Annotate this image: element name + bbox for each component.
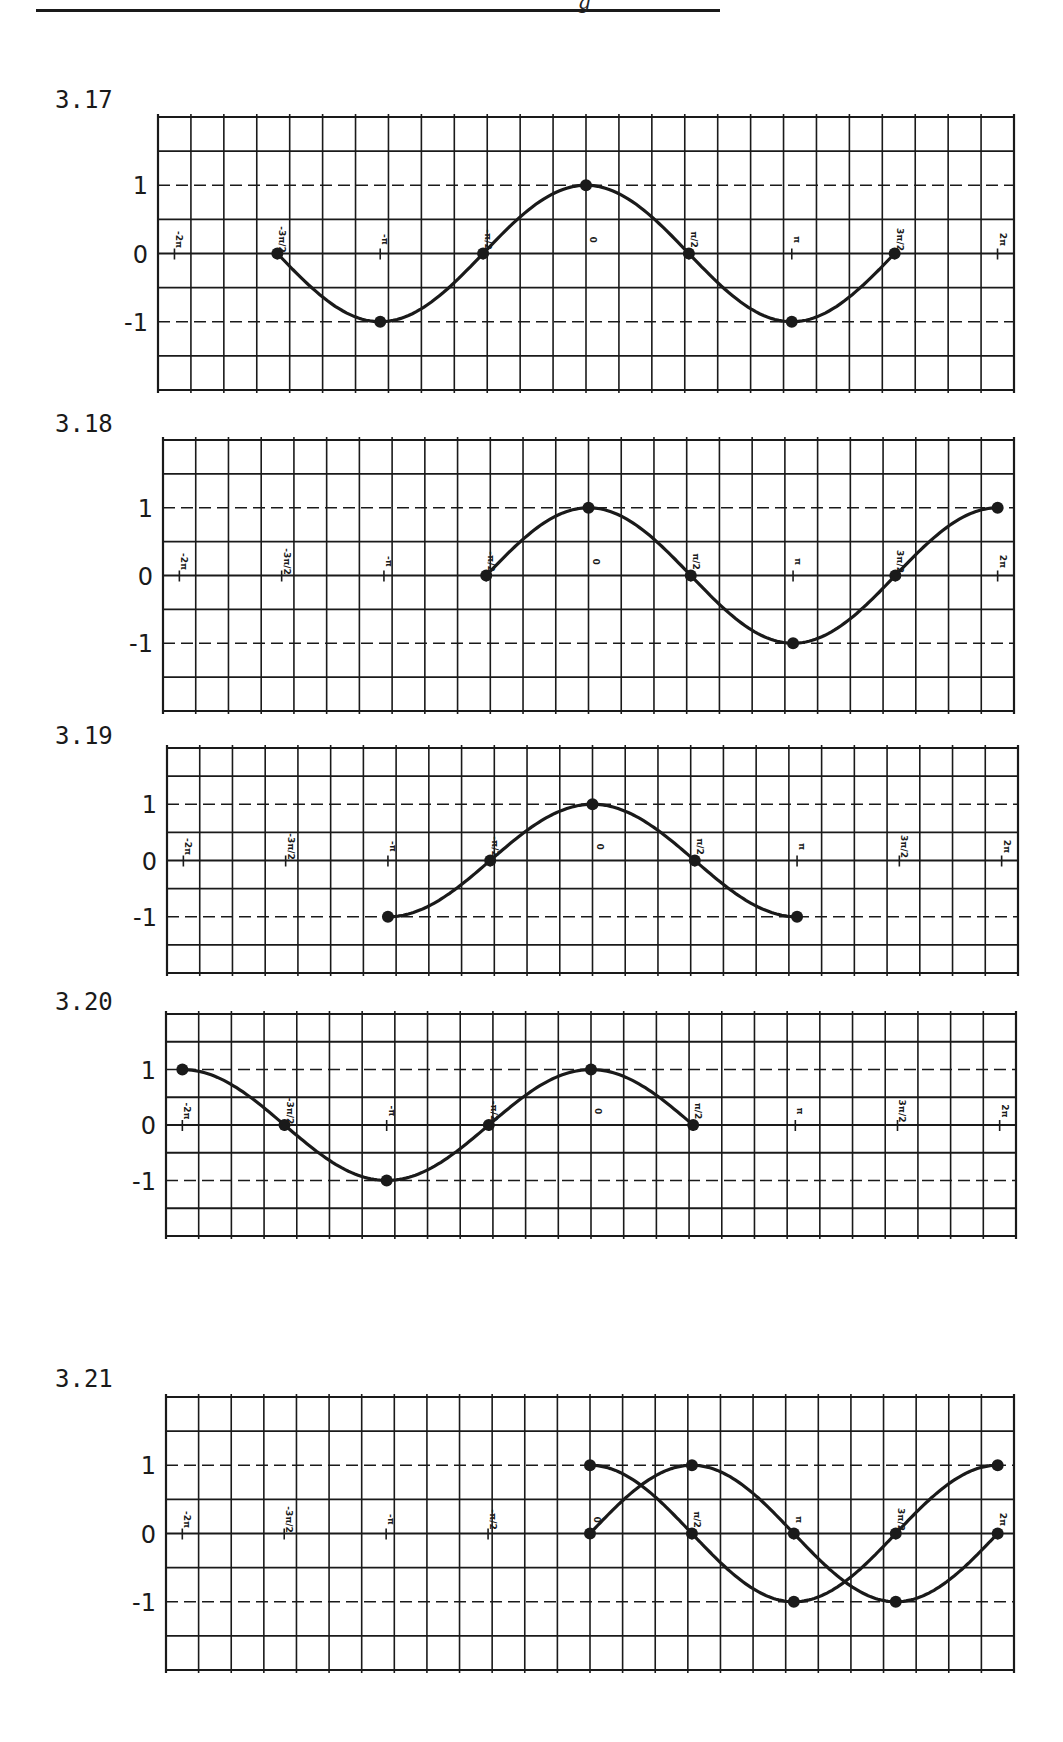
- y-tick-label: 1: [133, 172, 148, 200]
- data-point: [890, 1528, 902, 1540]
- figure-label: 3.19: [55, 722, 113, 750]
- grid: [166, 1011, 1016, 1239]
- x-tick-label: 0: [595, 843, 605, 849]
- x-tick-label: -3π/2: [282, 548, 292, 575]
- x-tick-label: 0: [591, 558, 601, 564]
- figure-label: 3.17: [55, 86, 113, 114]
- x-tick-label: 3π/2: [897, 1100, 907, 1123]
- y-tick-label: -1: [124, 309, 148, 337]
- x-tick-label: -3π/2: [284, 1506, 294, 1533]
- x-tick-label: π/2: [691, 553, 701, 570]
- x-tick-label: -π: [387, 1106, 397, 1117]
- y-tick-label: 0: [141, 1112, 156, 1140]
- data-point: [685, 570, 697, 582]
- y-tick-label: 0: [142, 848, 157, 876]
- x-tick-label: -2π: [183, 838, 193, 855]
- y-tick-label: 0: [133, 241, 148, 269]
- x-tick-label: π: [793, 558, 803, 565]
- x-tick-label: 0: [593, 1108, 603, 1114]
- data-point: [584, 1528, 596, 1540]
- data-point: [176, 1064, 188, 1076]
- figure-label: 3.18: [55, 410, 113, 438]
- data-point: [787, 637, 799, 649]
- data-point: [584, 1459, 596, 1471]
- data-point: [992, 1528, 1004, 1540]
- x-tick-label: -π: [388, 841, 398, 852]
- data-point: [587, 798, 599, 810]
- data-point: [374, 316, 386, 328]
- data-point: [683, 248, 695, 260]
- y-tick-label: 0: [141, 1521, 156, 1549]
- y-tick-label: 0: [138, 563, 153, 591]
- figure-label: 3.21: [55, 1365, 113, 1393]
- data-point: [477, 248, 489, 260]
- x-tick-label: -2π: [179, 553, 189, 570]
- data-point: [480, 570, 492, 582]
- x-tick-label: 2π: [998, 233, 1008, 246]
- x-tick-label: -2π: [182, 1511, 192, 1528]
- figure-label: 3.20: [55, 988, 113, 1016]
- data-point: [583, 502, 595, 514]
- x-tick-label: -π: [380, 234, 390, 245]
- plot-3-21: 10-1-2π-3π/2-π-π/20π/2π3π/22π: [166, 1397, 1014, 1670]
- data-point: [788, 1528, 800, 1540]
- data-point: [889, 248, 901, 260]
- x-tick-label: 2π: [1000, 1104, 1010, 1117]
- y-tick-label: 1: [142, 791, 157, 819]
- y-tick-label: 1: [141, 1057, 156, 1085]
- x-tick-label: -3π/2: [286, 833, 296, 860]
- x-tick-label: π/2: [693, 1103, 703, 1120]
- x-tick-label: π/2: [692, 1511, 702, 1528]
- x-tick-label: π/2: [695, 838, 705, 855]
- x-tick-label: 2π: [998, 555, 1008, 568]
- data-point: [381, 1175, 393, 1187]
- data-point: [889, 570, 901, 582]
- data-point: [271, 248, 283, 260]
- x-tick-label: 2π: [998, 1513, 1008, 1526]
- plot-3-20: 10-1-2π-3π/2-π-π/20π/2π3π/22π: [166, 1014, 1016, 1236]
- data-point: [686, 1528, 698, 1540]
- data-point: [483, 1119, 495, 1131]
- x-tick-label: π: [794, 1516, 804, 1523]
- x-tick-label: 0: [588, 236, 598, 242]
- x-tick-label: π: [797, 843, 807, 850]
- grid: [167, 745, 1018, 976]
- data-point: [786, 316, 798, 328]
- x-tick-label: 3π/2: [899, 835, 909, 858]
- x-tick-label: -2π: [182, 1102, 192, 1119]
- grid: [158, 114, 1014, 393]
- x-tick-label: -2π: [174, 231, 184, 248]
- y-tick-label: 1: [138, 495, 153, 523]
- x-tick-label: π: [795, 1107, 805, 1114]
- data-point: [687, 1119, 699, 1131]
- x-tick-label: 3π/2: [895, 228, 905, 251]
- data-point: [484, 855, 496, 867]
- grid: [163, 437, 1014, 714]
- y-tick-label: -1: [132, 1168, 156, 1196]
- data-point: [890, 1596, 902, 1608]
- y-tick-label: -1: [129, 630, 153, 658]
- data-point: [689, 855, 701, 867]
- plot-3-18: 10-1-2π-3π/2-π-π/20π/2π3π/22π: [163, 440, 1014, 711]
- data-point: [585, 1064, 597, 1076]
- data-point: [279, 1119, 291, 1131]
- data-point: [580, 179, 592, 191]
- y-tick-label: 1: [141, 1452, 156, 1480]
- plot-3-17: 10-1-2π-3π/2-π-π/20π/2π3π/22π: [158, 117, 1014, 390]
- y-tick-label: -1: [132, 1589, 156, 1617]
- x-tick-label: 2π: [1002, 840, 1012, 853]
- data-point: [992, 1459, 1004, 1471]
- header-rule: [36, 9, 720, 12]
- data-point: [788, 1596, 800, 1608]
- data-point: [791, 911, 803, 923]
- x-tick-label: -π: [386, 1514, 396, 1525]
- plot-3-19: 10-1-2π-3π/2-π-π/20π/2π3π/22π: [167, 748, 1018, 973]
- data-point: [686, 1459, 698, 1471]
- x-tick-label: π/2: [689, 231, 699, 248]
- x-tick-label: -π: [384, 556, 394, 567]
- header-text-fragment: g: [578, 0, 591, 14]
- y-tick-label: -1: [133, 904, 157, 932]
- data-point: [992, 502, 1004, 514]
- data-point: [382, 911, 394, 923]
- x-tick-label: -π/2: [488, 1509, 498, 1529]
